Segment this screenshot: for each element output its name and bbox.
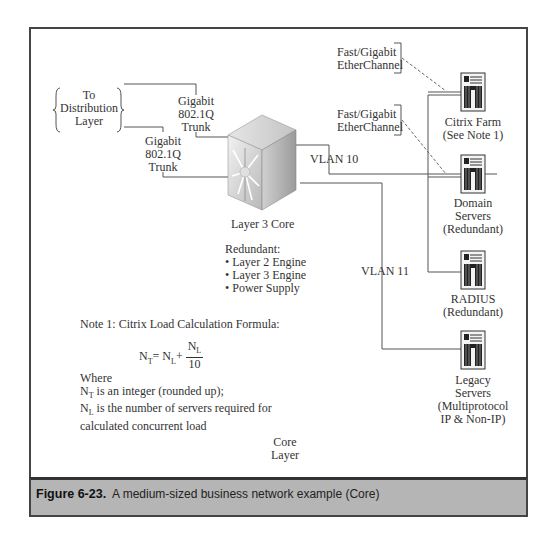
figure-caption: A medium-sized business network example … [112, 487, 379, 501]
note-line-2: NL is the number of servers required for [80, 402, 272, 419]
note-body: Where NT is an integer (rounded up); NL … [80, 372, 272, 433]
formula-eq: = N [153, 349, 171, 363]
server-label-domain: Domain Servers (Redundant) [438, 197, 508, 236]
note-title: Note 1: Citrix Load Calculation Formula: [80, 318, 280, 331]
formula-den: 10 [186, 358, 204, 371]
formula-fraction: NL 10 [186, 340, 204, 371]
note-line-1: NT is an integer (rounded up); [80, 385, 272, 402]
distribution-layer-label: To Distribution Layer [58, 89, 120, 128]
vlan10-label: VLAN 10 [310, 153, 358, 166]
label-line: Trunk [171, 121, 221, 134]
label-line: Trunk [138, 161, 188, 174]
server-label-citrix: Citrix Farm (See Note 1) [438, 116, 508, 142]
trunk-label-upper: Gigabit 802.1Q Trunk [171, 95, 221, 134]
redundant-item: • Power Supply [225, 282, 306, 295]
server-label-radius: RADIUS (Redundant) [438, 293, 508, 319]
server-label-legacy: Legacy Servers (Multiprotocol IP & Non-I… [433, 374, 513, 426]
formula-sub: L [196, 346, 201, 355]
text: is an integer (rounded up); [94, 384, 224, 398]
vlan11-label: VLAN 11 [361, 265, 409, 278]
label-line: Layer [260, 449, 310, 462]
formula-var: N [139, 349, 148, 363]
label-line: Layer [58, 115, 120, 128]
citrix-formula: NT= NL+ NL 10 [139, 342, 203, 373]
server-icon [461, 73, 485, 111]
figure-number: Figure 6-23. [36, 487, 106, 501]
etherchannel-label-1: Fast/Gigabit EtherChannel [337, 46, 393, 72]
note-line-3: calculated concurrent load [80, 420, 272, 433]
layer3-switch-icon [228, 115, 296, 210]
label-line: (Redundant) [438, 223, 508, 236]
core-layer-label: Core Layer [260, 436, 310, 462]
server-icon [461, 251, 485, 289]
text: is the number of servers required for [94, 401, 272, 415]
label-line: EtherChannel [337, 59, 393, 72]
server-icon [461, 331, 485, 369]
trunk-label-lower: Gigabit 802.1Q Trunk [138, 135, 188, 174]
formula-plus: + [176, 349, 183, 363]
core-label: Layer 3 Core [231, 218, 294, 231]
label-line: (See Note 1) [438, 129, 508, 142]
label-line: (Redundant) [438, 306, 508, 319]
var: N [80, 384, 89, 398]
redundant-list: Redundant: • Layer 2 Engine • Layer 3 En… [225, 243, 306, 295]
etherchannel-label-2: Fast/Gigabit EtherChannel [337, 108, 393, 134]
label-line: IP & Non-IP) [433, 413, 513, 426]
server-icon [461, 155, 485, 193]
var: N [80, 401, 89, 415]
label-line: EtherChannel [337, 121, 393, 134]
